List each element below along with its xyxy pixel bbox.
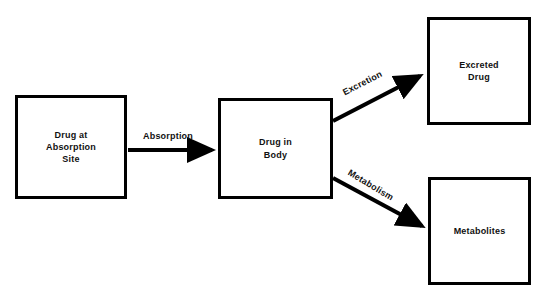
node-metabolites: Metabolites bbox=[428, 177, 531, 285]
node-excreted-drug: Excreted Drug bbox=[427, 17, 531, 125]
node-label: Excreted Drug bbox=[459, 59, 499, 83]
node-label: Drug at Absorption Site bbox=[46, 129, 96, 165]
node-drug-in-body: Drug in Body bbox=[218, 98, 333, 199]
node-label: Drug in Body bbox=[259, 136, 292, 160]
diagram-canvas: Drug at Absorption Site Drug in Body Exc… bbox=[0, 0, 548, 293]
node-label: Metabolites bbox=[454, 225, 506, 237]
edge-excretion-arrow bbox=[333, 76, 420, 121]
edge-label-absorption: Absorption bbox=[143, 131, 193, 141]
node-drug-at-absorption-site: Drug at Absorption Site bbox=[15, 95, 127, 199]
